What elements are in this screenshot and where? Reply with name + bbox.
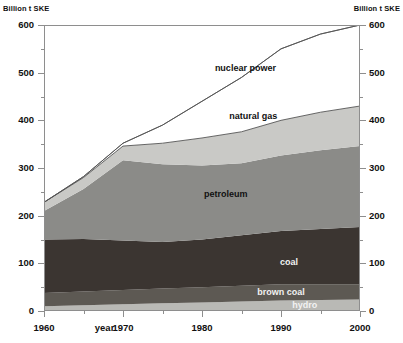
y-tick-label-left-200: 200 <box>2 210 34 221</box>
series-label-hydro: hydro <box>292 300 317 310</box>
y-tick-left-300 <box>38 168 44 169</box>
x-tick-1960 <box>44 311 45 317</box>
series-label-petroleum: petroleum <box>204 189 248 199</box>
y-tick-left-200 <box>38 216 44 217</box>
x-tick-1970 <box>123 311 124 317</box>
x-tick-label-1990: 1990 <box>258 322 304 333</box>
y-minor-tick-r-350 <box>360 144 363 145</box>
y-tick-label-left-300: 300 <box>2 162 34 173</box>
y-tick-left-400 <box>38 120 44 121</box>
y-tick-right-600 <box>360 25 366 26</box>
y-tick-label-right-400: 400 <box>369 114 403 125</box>
y-tick-right-100 <box>360 263 366 264</box>
y-tick-label-right-600: 600 <box>369 19 403 30</box>
y-minor-tick-r-150 <box>360 240 363 241</box>
y-tick-label-left-500: 500 <box>2 67 34 78</box>
y-minor-tick-r-250 <box>360 192 363 193</box>
y-tick-right-200 <box>360 216 366 217</box>
y-tick-label-left-0: 0 <box>2 305 34 316</box>
series-label-natural-gas: natural gas <box>229 111 277 121</box>
y-minor-tick-r-450 <box>360 97 363 98</box>
x-tick-label-1980: 1980 <box>179 322 225 333</box>
x-tick-label-1960: 1960 <box>21 322 67 333</box>
y-minor-tick-r-550 <box>360 49 363 50</box>
right-axis-title: Billion t SKE <box>354 4 400 13</box>
x-minor-tick-1965 <box>84 311 85 314</box>
y-tick-label-right-500: 500 <box>369 67 403 78</box>
y-minor-tick-150 <box>41 240 44 241</box>
y-tick-left-600 <box>38 25 44 26</box>
y-tick-right-300 <box>360 168 366 169</box>
y-tick-label-right-300: 300 <box>369 162 403 173</box>
y-tick-label-left-100: 100 <box>2 257 34 268</box>
y-minor-tick-350 <box>41 144 44 145</box>
y-tick-label-left-400: 400 <box>2 114 34 125</box>
stacked-area-chart: Billion t SKE Billion t SKE 001001002002… <box>0 0 403 343</box>
y-minor-tick-50 <box>41 287 44 288</box>
y-tick-left-100 <box>38 263 44 264</box>
x-tick-2000 <box>360 311 361 317</box>
y-tick-label-right-100: 100 <box>369 257 403 268</box>
x-minor-tick-1975 <box>163 311 164 314</box>
series-label-nuclear-power: nuclear power <box>215 63 276 73</box>
series-label-coal: coal <box>280 257 298 267</box>
y-minor-tick-250 <box>41 192 44 193</box>
plot-area <box>44 25 360 311</box>
x-minor-tick-1985 <box>242 311 243 314</box>
x-tick-1980 <box>202 311 203 317</box>
y-tick-label-right-0: 0 <box>369 305 403 316</box>
x-axis-name: year <box>95 322 115 333</box>
y-tick-right-400 <box>360 120 366 121</box>
x-tick-1990 <box>281 311 282 317</box>
y-minor-tick-550 <box>41 49 44 50</box>
x-tick-label-2000: 2000 <box>337 322 383 333</box>
y-minor-tick-450 <box>41 97 44 98</box>
y-tick-left-500 <box>38 73 44 74</box>
y-tick-right-500 <box>360 73 366 74</box>
left-axis-title: Billion t SKE <box>3 4 49 13</box>
series-label-brown-coal: brown coal <box>257 287 305 297</box>
y-minor-tick-r-50 <box>360 287 363 288</box>
y-tick-label-left-600: 600 <box>2 19 34 30</box>
y-tick-label-right-200: 200 <box>369 210 403 221</box>
x-minor-tick-1995 <box>321 311 322 314</box>
area-series-group <box>44 25 360 311</box>
